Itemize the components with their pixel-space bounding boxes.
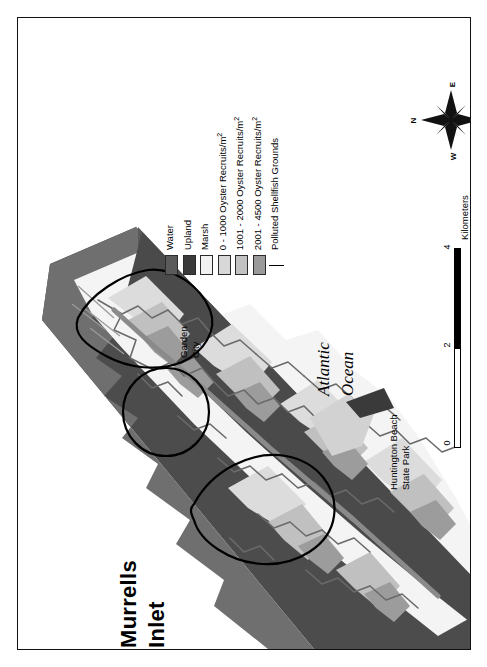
map-frame-border: Murrells Inlet Atlantic Ocean Garden Cit… — [17, 17, 471, 650]
map-figure: Murrells Inlet Atlantic Ocean Garden Cit… — [0, 0, 487, 667]
map-title-line-2: Inlet — [144, 601, 170, 648]
legend-color-swatch — [165, 255, 178, 275]
legend-color-swatch — [200, 255, 213, 275]
legend-item-label: Water — [164, 225, 175, 250]
legend-item-label: Marsh — [199, 224, 210, 250]
garden-city-line-1: Garden — [178, 326, 189, 358]
huntington-beach-line-1: Huntington Beach — [388, 414, 399, 490]
garden-city-line-2: City — [190, 342, 201, 358]
legend-item-label: 0 - 1000 Oyster Recruits/m2 — [215, 133, 227, 250]
legend-item-label: 2001 - 4500 Oyster Recruits/m2 — [250, 117, 262, 250]
ocean-label-line-1: Atlantic — [314, 342, 334, 396]
compass-north-label: N — [409, 118, 418, 124]
ocean-label-line-2: Ocean — [338, 352, 358, 396]
scale-tick-4: 4 — [442, 244, 452, 249]
huntington-beach-line-2: State Park — [400, 446, 411, 490]
scale-tick-0: 0 — [442, 440, 452, 445]
legend-color-swatch — [183, 255, 196, 275]
legend-item-6: Polluted Shellfish Grounds — [268, 48, 290, 278]
compass-west-label: W — [449, 153, 458, 161]
scale-tick-2: 2 — [442, 342, 452, 347]
map-legend: WaterUplandMarsh0 - 1000 Oyster Recruits… — [163, 48, 288, 278]
legend-label-superscript: 2 — [250, 117, 257, 121]
compass-east-label: E — [448, 82, 457, 87]
compass-star-icon — [421, 90, 471, 150]
scale-units-label: Kilometers — [459, 195, 470, 240]
legend-color-swatch — [218, 255, 231, 275]
legend-color-swatch — [235, 255, 248, 275]
compass-rose: N E S W — [410, 76, 471, 164]
legend-item-label: Polluted Shellfish Grounds — [269, 138, 280, 250]
legend-item-label: 1001 - 2000 Oyster Recruits/m2 — [233, 117, 245, 250]
scale-bar-track — [454, 248, 461, 448]
map-title: Murrells Inlet — [58, 518, 178, 648]
legend-label-superscript: 2 — [215, 133, 222, 137]
legend-label-superscript: 2 — [233, 117, 240, 121]
legend-item-label: Upland — [182, 220, 193, 250]
scale-bar: 0 2 4 Kilometers — [445, 248, 471, 468]
map-title-line-1: Murrells — [116, 560, 142, 648]
scale-segment-0-2 — [455, 249, 460, 349]
legend-color-swatch — [253, 255, 266, 275]
legend-line-symbol — [269, 265, 284, 266]
